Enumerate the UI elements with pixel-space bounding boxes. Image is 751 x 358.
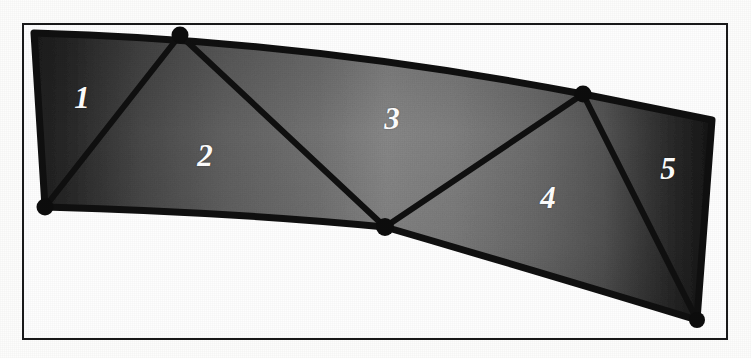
region-label-3: 3 bbox=[384, 103, 400, 134]
figure-border bbox=[22, 23, 728, 340]
region-label-5: 5 bbox=[660, 153, 676, 184]
figure-root: 1 2 3 4 5 bbox=[0, 0, 751, 358]
region-label-1: 1 bbox=[74, 82, 90, 113]
region-label-4: 4 bbox=[540, 182, 556, 213]
region-label-2: 2 bbox=[197, 140, 213, 171]
